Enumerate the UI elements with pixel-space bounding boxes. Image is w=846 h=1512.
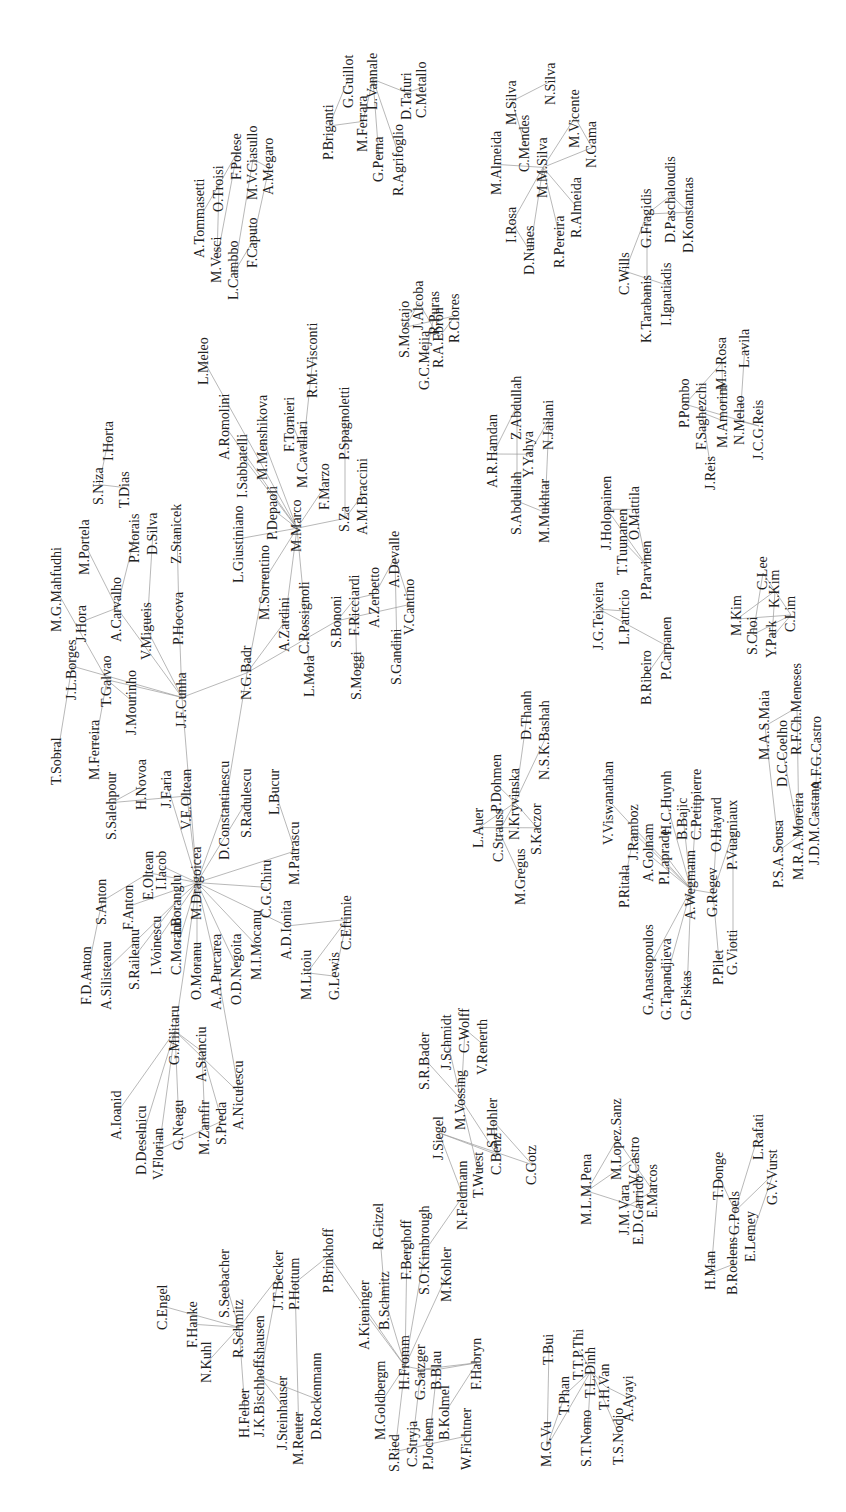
author-node: J.G.Teixeira [592,582,606,650]
author-node: G.Militaru [168,1006,182,1066]
author-node: S.Radulescu [240,768,254,838]
author-node: L.Auer [472,808,486,848]
author-node: I.Horta [102,421,116,461]
author-node: P.Hottum [288,1257,302,1310]
author-node: N.S.K.Bashah [538,700,552,780]
author-node: C.Eftimie [340,895,354,950]
author-node: G.Lewis [328,952,342,1000]
author-node: E.Marcos [646,1164,660,1218]
author-node: P.Dohmen [490,754,504,812]
author-node: V.Cantino [403,579,417,635]
author-node: E.D.Garrido [632,1176,646,1245]
author-node: G.Regev [706,868,720,917]
author-node: J.Reis [704,456,718,490]
author-node: F.Berghoff [400,1220,414,1280]
author-node: J.T.Becker [272,1250,286,1310]
author-node: M.Litoiu [300,950,314,1000]
author-node: O.D.Negoita [230,933,244,1005]
author-node: C.Metallo [415,62,429,118]
author-node: I.Ignatiadis [660,263,674,326]
author-node: P.Jochem [422,1418,436,1471]
author-node: N.G.Badr [240,646,254,700]
author-node: L.Rafati [752,1114,766,1160]
author-node: A.M.Braccini [356,458,370,535]
author-node: J.Siegel [432,1116,446,1160]
author-node: N.Silva [544,63,558,105]
author-node: J.C.G.Reis [752,400,766,460]
author-node: F.D.Anton [80,946,94,1005]
author-node: M.Lopez.Sanz [610,1098,624,1180]
author-node: S.Preda [215,1102,229,1145]
author-node: G.Guillot [342,55,356,108]
coauthor-edge [287,919,347,926]
author-node: M.Vicente [568,89,582,148]
author-node: M.Dragoicea [190,847,204,920]
author-node: R.Almeida [570,177,584,238]
author-node: J.Schmidt [440,1014,454,1070]
author-node: A.Ayayi [622,1375,636,1422]
author-node: I.Sabbatelli [236,434,250,498]
author-node: G.Viotti [726,930,740,975]
author-node: C.Mendes [518,115,532,172]
author-node: O.Troisi [212,165,226,212]
author-node: G.Tapandjieva [660,938,674,1020]
author-node: T.Donge [712,1152,726,1200]
author-node: M.Cavallari [296,421,310,488]
coauthor-edge [197,883,267,888]
author-node: S.Za [338,506,352,532]
author-node: P.Parvinen [640,541,654,601]
author-node: T.L.Dinh [584,1347,598,1398]
author-node: J.Ramboz [627,804,641,860]
author-node: S.Raileanu [128,929,142,990]
author-node: A.Carvalho [110,577,124,642]
author-node: I.Rosa [505,207,519,243]
author-node: P.S.A.Sousa [772,820,786,888]
coauthor-edge [159,1121,222,1149]
author-node: L.Vannale [366,53,380,110]
author-node: E.Lemey [744,1211,758,1262]
author-node: F.Marzo [318,463,332,510]
author-node: P.Spagnoletti [338,386,352,460]
author-node: I.Iacob [155,851,169,890]
author-node: D.Silva [146,513,160,555]
author-node: P.Ritala [618,865,632,908]
author-node: A.Silisteanu [100,941,114,1010]
author-node: A.Golnam [642,823,656,882]
author-node: D.Rockenmann [310,1353,324,1440]
author-node: O.Mattila [628,486,642,540]
author-node: M.Gregus [514,849,528,905]
author-node: L.Giustiniano [232,506,246,583]
author-node: A.Zerbetto [368,567,382,628]
author-node: P.Brinkhoff [322,1228,336,1293]
author-node: J.Hora [75,605,89,642]
author-node: T.Galvao [100,656,114,707]
author-node: J.Holopainen [600,476,614,550]
author-node: S.Ried [388,1434,402,1472]
author-node: A.Megaro [262,138,276,195]
author-node: Y.Park [765,621,779,658]
author-node: M.Ferreira [88,720,102,780]
author-node: N.Jailani [542,400,556,450]
author-node: S.T.Nomo [580,1410,594,1467]
author-node: A.Tommasetti [193,178,207,258]
author-node: M.Portela [78,519,92,575]
author-node: A.Niculescu [232,1060,246,1130]
author-node: M.Kim [730,595,744,636]
author-node: F.Caputo [246,217,260,268]
author-node: I.Voinescu [150,916,164,975]
author-node: H.Man [704,1251,718,1290]
author-node: T.Dias [118,471,132,508]
author-node: M.G.Vu [540,1421,554,1467]
author-node: T.Sobral [50,737,64,785]
coauthor-edge [197,883,257,946]
author-node: A.R.Hamdan [486,414,500,488]
author-node: Z.Stanicek [170,504,184,564]
author-node: N.Kuhl [200,1341,214,1383]
author-node: H.C.Huynh [660,770,674,835]
author-node: M.Mukhtar [538,479,552,543]
author-node: S.Seebacher [218,1249,232,1318]
author-node: B.Kolmel [438,1385,452,1440]
author-node: P.Carpanen [660,617,674,680]
author-node: A.F.G.Castro [810,716,824,790]
author-node: Y.Yahya [522,431,536,478]
